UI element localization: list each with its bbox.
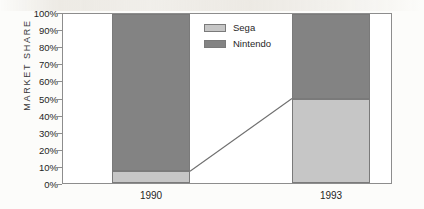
bar-segment-sega-1990[interactable] [112,171,190,183]
x-tick-label-1993: 1993 [286,190,376,201]
legend-swatch-sega [204,24,226,32]
x-tick-label-1990: 1990 [106,190,196,201]
scan-bleed-artifact [0,0,424,11]
y-tick-label: 70% [18,59,58,70]
y-tick-label: 30% [18,127,58,138]
bar-segment-nintendo-1990[interactable] [112,14,190,171]
legend-label-nintendo: Nintendo [233,38,271,49]
y-tick-label: 80% [18,42,58,53]
bar-segment-nintendo-1993[interactable] [292,14,370,99]
y-tick-label: 60% [18,76,58,87]
y-tick-label: 10% [18,161,58,172]
legend-label-sega: Sega [233,22,255,33]
legend-swatch-nintendo [204,40,226,48]
bar-segment-sega-1993[interactable] [292,99,370,184]
y-tick-mark [56,184,62,185]
y-tick-label: 40% [18,110,58,121]
y-tick-label: 0% [18,179,58,190]
chart-legend: Sega Nintendo [204,21,271,53]
y-tick-label: 50% [18,93,58,104]
y-tick-label: 20% [18,144,58,155]
legend-item-sega[interactable]: Sega [204,21,271,34]
market-share-chart: MARKET SHARE 100% 90% 80% 70% 60% 50% 40… [0,0,424,209]
plot-area: Sega Nintendo [62,13,392,184]
bar-1990[interactable] [112,14,190,183]
y-tick-label: 90% [18,25,58,36]
legend-item-nintendo[interactable]: Nintendo [204,37,271,50]
y-tick-label: 100% [18,8,58,19]
bar-1993[interactable] [292,14,370,183]
